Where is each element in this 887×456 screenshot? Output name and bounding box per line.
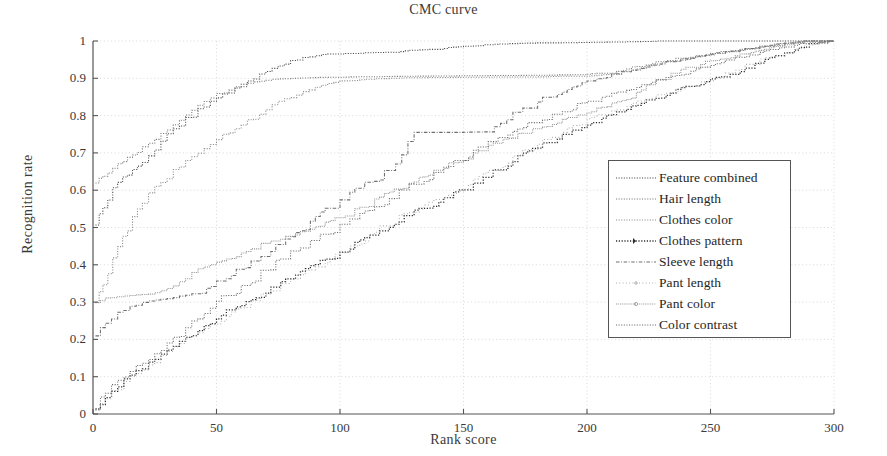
legend-item-sleeve-length[interactable]: Sleeve length xyxy=(609,251,790,272)
x-tick-label: 100 xyxy=(330,420,350,436)
y-tick-label: 0.1 xyxy=(70,369,86,385)
legend-label: Pant color xyxy=(659,296,715,312)
legend-item-clothes-pattern[interactable]: Clothes pattern xyxy=(609,230,790,251)
x-tick-label: 150 xyxy=(454,420,474,436)
x-tick-label: 0 xyxy=(90,420,97,436)
legend-swatch-icon xyxy=(615,318,657,332)
y-tick-label: 0 xyxy=(80,406,87,422)
x-tick-label: 50 xyxy=(210,420,223,436)
legend-label: Color contrast xyxy=(659,317,737,333)
legend-item-clothes-color[interactable]: Clothes color xyxy=(609,209,790,230)
y-axis-label: Recognition rate xyxy=(20,124,36,284)
x-tick-label: 300 xyxy=(824,420,844,436)
y-tick-label: 0.3 xyxy=(70,294,86,310)
x-tick-label: 200 xyxy=(577,420,597,436)
legend-swatch-icon xyxy=(615,234,657,248)
y-tick-label: 0.6 xyxy=(70,182,86,198)
y-tick-label: 0.9 xyxy=(70,70,86,86)
y-tick-label: 0.4 xyxy=(70,257,86,273)
y-tick-label: 1 xyxy=(80,33,87,49)
legend-swatch-icon xyxy=(615,276,657,290)
y-tick-label: 0.2 xyxy=(70,331,86,347)
legend-item-pant-color[interactable]: Pant color xyxy=(609,293,790,314)
legend-item-color-contrast[interactable]: Color contrast xyxy=(609,314,790,335)
legend-label: Sleeve length xyxy=(659,254,733,270)
legend-label: Feature combined xyxy=(659,170,758,186)
legend-swatch-icon xyxy=(615,213,657,227)
legend-item-pant-length[interactable]: Pant length xyxy=(609,272,790,293)
chart-legend[interactable]: Feature combinedHair lengthClothes color… xyxy=(608,160,791,338)
legend-swatch-icon xyxy=(615,255,657,269)
y-tick-label: 0.8 xyxy=(70,108,86,124)
legend-item-feature-combined[interactable]: Feature combined xyxy=(609,167,790,188)
y-tick-label: 0.7 xyxy=(70,145,86,161)
legend-swatch-icon xyxy=(615,171,657,185)
x-tick-label: 250 xyxy=(701,420,721,436)
cmc-curve-figure: CMC curve Recognition rate Rank score 05… xyxy=(0,0,887,456)
chart-title: CMC curve xyxy=(0,2,887,18)
legend-label: Hair length xyxy=(659,191,721,207)
legend-swatch-icon xyxy=(615,192,657,206)
legend-swatch-icon xyxy=(615,297,657,311)
legend-label: Clothes pattern xyxy=(659,233,743,249)
legend-item-hair-length[interactable]: Hair length xyxy=(609,188,790,209)
legend-label: Clothes color xyxy=(659,212,733,228)
y-tick-label: 0.5 xyxy=(70,220,86,236)
legend-label: Pant length xyxy=(659,275,721,291)
